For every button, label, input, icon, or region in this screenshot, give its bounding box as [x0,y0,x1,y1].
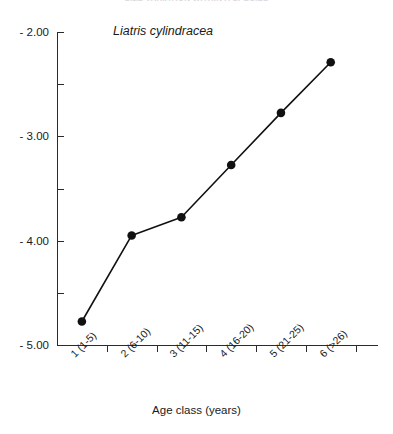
species-annotation: Liatris cylindracea [113,24,213,38]
y-axis-tick-label: - 3.00 [20,130,49,142]
data-series [57,32,378,346]
series-line [82,62,331,321]
x-axis-tick [157,346,158,352]
figure-title-cropped: SIZE VARIATION WITHIN A SPECIES [0,0,393,4]
data-point-marker [227,161,236,170]
x-axis-title: Age class (years) [0,404,393,416]
x-axis-tick [306,346,307,352]
data-point-marker [277,109,286,118]
data-point-marker [326,58,335,67]
x-axis-tick [356,346,357,352]
y-axis-tick-label: - 4.00 [20,235,49,247]
data-point-marker [78,317,87,326]
x-axis-tick [256,346,257,352]
data-point-marker [127,231,136,240]
data-point-marker [177,213,186,222]
y-axis-tick-label: - 2.00 [20,26,49,38]
x-axis-tick [206,346,207,352]
y-axis-tick-label: - 5.00 [20,339,49,351]
plot-area: - 2.00- 3.00- 4.00- 5.00- 6.00- 7.00- 8.… [57,32,378,345]
x-axis-tick [107,346,108,352]
